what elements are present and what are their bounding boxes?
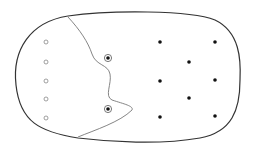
solid-point (213, 40, 217, 44)
solid-point (213, 114, 217, 118)
decision-boundary (68, 17, 132, 137)
solid-point (158, 40, 162, 44)
solid-point (187, 60, 191, 64)
ringed-points (104, 54, 111, 112)
hollow-point (44, 60, 48, 64)
region-outline (15, 12, 240, 142)
diagram-canvas (0, 0, 253, 151)
hollow-point (44, 97, 48, 101)
solid-point (213, 78, 217, 82)
ringed-point (106, 56, 110, 60)
hollow-point (44, 116, 48, 120)
hollow-point (44, 79, 48, 83)
solid-point (158, 79, 162, 83)
ringed-point (106, 107, 110, 111)
hollow-point (44, 40, 48, 44)
solid-points (158, 40, 217, 119)
solid-point (158, 115, 162, 119)
solid-point (187, 96, 191, 100)
hollow-points (44, 40, 48, 120)
